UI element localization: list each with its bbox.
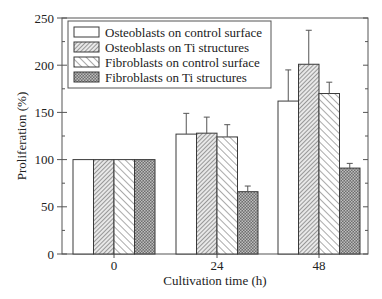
legend-swatch bbox=[74, 72, 99, 82]
legend: Osteoblasts on control surfaceOsteoblast… bbox=[68, 21, 271, 88]
bar bbox=[73, 160, 94, 254]
y-tick-label: 150 bbox=[35, 105, 55, 120]
y-tick-label: 50 bbox=[41, 199, 54, 214]
y-tick-label: 250 bbox=[35, 11, 55, 26]
legend-swatch bbox=[74, 57, 99, 67]
bar bbox=[94, 160, 115, 254]
x-tick-label: 0 bbox=[111, 258, 118, 273]
bar-group-24h bbox=[176, 113, 258, 254]
x-axis-label: Cultivation time (h) bbox=[163, 273, 266, 288]
y-axis-tick-labels: 050100150200250 bbox=[35, 11, 55, 262]
legend-label: Osteoblasts on control surface bbox=[105, 25, 262, 40]
y-tick-label: 0 bbox=[48, 247, 55, 262]
legend-label: Fibroblasts on Ti structures bbox=[105, 70, 247, 85]
legend-swatch bbox=[74, 42, 99, 52]
bar bbox=[340, 168, 361, 254]
legend-label: Fibroblasts on control surface bbox=[105, 55, 260, 70]
bar bbox=[217, 137, 238, 254]
bar bbox=[238, 192, 259, 254]
bar bbox=[135, 160, 156, 254]
x-tick-label: 24 bbox=[211, 258, 225, 273]
y-tick-label: 100 bbox=[35, 152, 55, 167]
bar bbox=[197, 133, 218, 254]
bar bbox=[299, 64, 320, 254]
y-tick-label: 200 bbox=[35, 58, 55, 73]
x-tick-label: 48 bbox=[313, 258, 326, 273]
bar-group-48h bbox=[278, 30, 360, 254]
legend-label: Osteoblasts on Ti structures bbox=[105, 40, 249, 55]
bar bbox=[176, 134, 197, 254]
bar bbox=[319, 94, 340, 254]
x-axis-tick-labels: 02448 bbox=[111, 254, 326, 273]
bar-group-0h bbox=[73, 160, 155, 254]
bar-chart: 050100150200250 02448 Cultivation time (… bbox=[0, 0, 382, 299]
legend-swatch bbox=[74, 27, 99, 37]
bar bbox=[114, 160, 135, 254]
y-axis-label: Proliferation (%) bbox=[14, 92, 29, 180]
bar bbox=[278, 101, 299, 254]
